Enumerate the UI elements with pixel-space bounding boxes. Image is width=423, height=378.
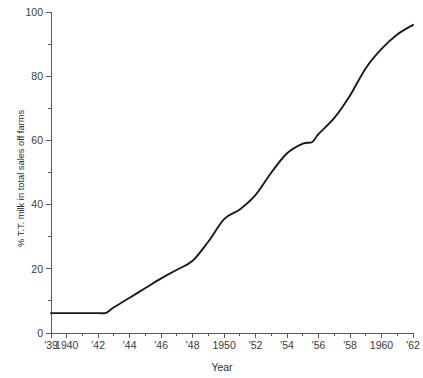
x-tick-label: '42 [91, 339, 105, 351]
x-tick-label: '44 [123, 339, 137, 351]
y-axis-title-wrap: % T.T. milk in total sales off farms [2, 0, 22, 378]
data-series-group [51, 25, 413, 313]
y-axis-title: % T.T. milk in total sales off farms [16, 110, 26, 247]
x-axis-title: Year [211, 361, 233, 373]
x-tick-label: 1960 [370, 339, 394, 351]
x-tick-label: '46 [154, 339, 168, 351]
y-tick-label: 40 [31, 198, 43, 210]
y-tick-label: 20 [31, 263, 43, 275]
chart-figure: % T.T. milk in total sales off farms 020… [0, 0, 423, 378]
x-tick-label: '58 [343, 339, 357, 351]
x-tick-label: 1940 [55, 339, 79, 351]
data-line [51, 25, 413, 313]
plot-svg: 020406080100 '391940'42'44'46'481950'52'… [0, 0, 423, 378]
y-tick-label: 60 [31, 134, 43, 146]
x-tick-label: '54 [280, 339, 294, 351]
y-axis: 020406080100 [25, 6, 51, 339]
y-tick-label: 100 [25, 6, 43, 18]
x-tick-label: '62 [406, 339, 420, 351]
x-tick-label: '52 [249, 339, 263, 351]
y-tick-label: 80 [31, 70, 43, 82]
x-tick-label: '48 [186, 339, 200, 351]
x-tick-label: 1950 [212, 339, 236, 351]
x-tick-label: '56 [312, 339, 326, 351]
x-axis: '391940'42'44'46'481950'52'54'56'581960'… [44, 333, 420, 351]
y-tick-label: 0 [37, 327, 43, 339]
